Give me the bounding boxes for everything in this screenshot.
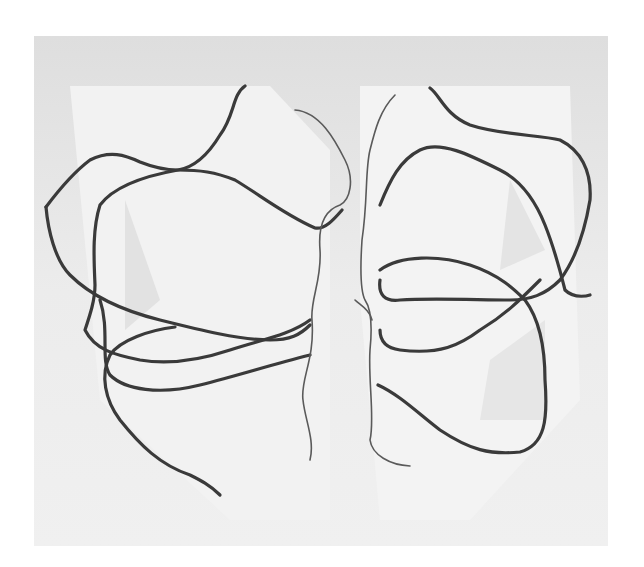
abstract-line-drawing [0,0,644,567]
